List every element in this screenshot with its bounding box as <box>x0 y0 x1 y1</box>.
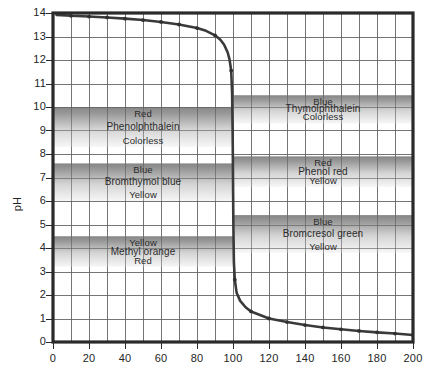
y-tick-4: 4 <box>18 241 46 253</box>
curve-marker <box>87 15 91 19</box>
titration-curve-figure: pH 01234567891011121314 0204060801001201… <box>0 0 428 376</box>
y-tick-8: 8 <box>18 147 46 159</box>
curve-marker <box>105 16 109 20</box>
y-tick-7: 7 <box>18 171 46 183</box>
curve-marker <box>213 33 217 37</box>
y-tick-0: 0 <box>18 335 46 347</box>
y-tick-10: 10 <box>18 100 46 112</box>
curve-marker <box>267 317 271 321</box>
curve-marker <box>233 278 237 282</box>
y-tick-1: 1 <box>18 312 46 324</box>
plot-canvas <box>0 0 428 376</box>
curve-marker <box>159 20 163 24</box>
curve-marker <box>141 18 145 22</box>
y-tick-14: 14 <box>18 6 46 18</box>
indicator-band-bromcresol-green-right <box>233 215 413 253</box>
curve-marker <box>249 310 253 314</box>
curve-marker <box>229 69 233 73</box>
indicator-band-phenol-red-right <box>233 156 413 187</box>
curve-marker <box>285 320 289 324</box>
indicator-band-phenolphthalein-left <box>53 107 233 147</box>
curve-marker <box>123 17 127 21</box>
curve-marker <box>357 329 361 333</box>
y-tick-5: 5 <box>18 218 46 230</box>
curve-marker <box>303 323 307 327</box>
curve-marker <box>177 23 181 27</box>
y-tick-12: 12 <box>18 53 46 65</box>
curve-marker <box>195 26 199 30</box>
curve-marker <box>375 330 379 334</box>
y-tick-9: 9 <box>18 124 46 136</box>
indicator-band-methyl-orange-left <box>53 236 233 267</box>
x-tick-200: 200 <box>388 352 428 364</box>
curve-marker <box>339 327 343 331</box>
y-tick-11: 11 <box>18 77 46 89</box>
y-tick-13: 13 <box>18 30 46 42</box>
y-tick-2: 2 <box>18 288 46 300</box>
y-tick-3: 3 <box>18 265 46 277</box>
curve-marker <box>393 332 397 336</box>
y-tick-6: 6 <box>18 194 46 206</box>
indicator-band-bromthymol-blue-left <box>53 163 233 201</box>
curve-marker <box>321 326 325 330</box>
indicator-band-thymolphthalein-right <box>233 95 413 123</box>
